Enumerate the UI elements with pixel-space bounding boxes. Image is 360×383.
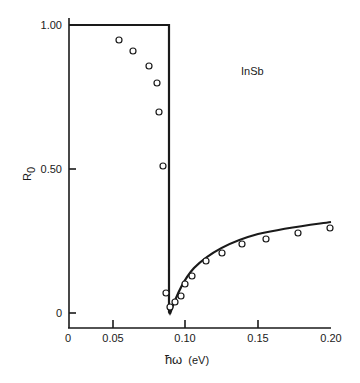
x-axis-title: ħω (eV) (165, 352, 209, 367)
x-tick-label: 0.20 (320, 332, 341, 344)
y-tick-label: 0.50 (41, 163, 62, 175)
x-tick-label: 0 (65, 332, 71, 344)
theory-curve (69, 25, 331, 314)
material-annotation: InSb (241, 65, 264, 77)
x-tick-label: 0.15 (247, 332, 268, 344)
y-tick-label: 1.00 (41, 19, 62, 31)
y-tick-labels: 0 0.50 1.00 (41, 19, 62, 319)
y-axis-title: R0 (21, 167, 37, 181)
y-tick-label: 0 (56, 307, 62, 319)
x-tick-label: 0.10 (174, 332, 195, 344)
experimental-points (116, 37, 333, 310)
x-tick-labels: 0 0.05 0.10 0.15 0.20 (65, 332, 342, 344)
svg-text:R0: R0 (21, 167, 37, 181)
reflectivity-chart: 0 0.50 1.00 0 0.05 0.10 0.15 0.20 ħω (eV… (0, 0, 360, 383)
x-tick-label: 0.05 (102, 332, 123, 344)
axes (68, 18, 331, 328)
